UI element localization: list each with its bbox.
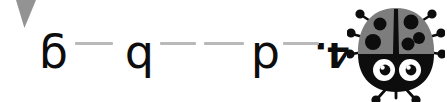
ladybug-illustration — [347, 2, 445, 102]
writing-dash-1 — [283, 42, 319, 45]
writing-dash-3 — [160, 42, 196, 45]
worksheet-row: 4. d b g — [0, 0, 447, 102]
rotated-glyph-strip: 4. d b g — [0, 0, 356, 102]
prompt-letter-b: b — [125, 36, 154, 82]
item-number: 4. — [315, 38, 350, 72]
writing-dash-2 — [204, 42, 244, 45]
ladybug-head — [358, 54, 434, 92]
writing-dash-4 — [75, 42, 113, 45]
prompt-letter-g: g — [39, 36, 68, 82]
ladybug-wing-divider — [393, 9, 399, 54]
prompt-letter-d: d — [251, 36, 280, 82]
